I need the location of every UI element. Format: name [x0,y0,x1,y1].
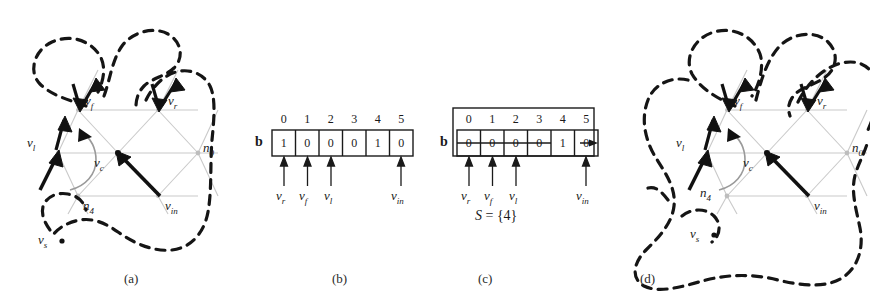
arrows-d [689,78,834,196]
label-n0-d: n0 [852,140,863,158]
label-vin-d: vin [814,198,827,216]
label-vf-d: vf [734,93,742,111]
label-vc-d: vc [743,155,753,173]
panel-label-d: (d) [640,271,655,287]
label-n4-d: n4 [700,185,711,203]
label-vl-d: vl [676,135,684,153]
mesh-d-lines [707,70,867,214]
label-vr-d: vr [817,93,826,111]
label-vs-d: vs [690,226,699,244]
panel-d-graphics [0,0,870,304]
